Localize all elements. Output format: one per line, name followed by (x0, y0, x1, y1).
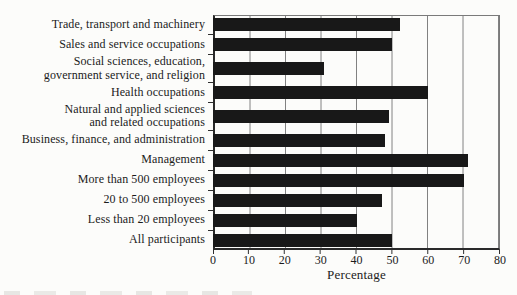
bar (213, 18, 400, 31)
chart-row: Health occupations (0, 83, 500, 103)
bar-track (211, 170, 500, 190)
x-tick-label: 60 (422, 253, 434, 268)
category-label: Health occupations (0, 86, 211, 99)
bar-track (211, 15, 500, 35)
x-tick-label: 30 (315, 253, 327, 268)
x-tick-label: 0 (210, 253, 216, 268)
x-axis-title: Percentage (213, 267, 500, 283)
bar-track (211, 210, 500, 230)
scanned-bar-chart-figure: Trade, transport and machinerySales and … (0, 0, 517, 295)
category-label: Less than 20 employees (0, 213, 211, 226)
chart-row: Natural and applied sciences and related… (0, 103, 500, 131)
bar-track (211, 190, 500, 210)
bar-track (211, 103, 500, 131)
category-label: Management (0, 153, 211, 166)
bar (213, 62, 324, 75)
chart-row: Social sciences, education, government s… (0, 55, 500, 83)
bar (213, 194, 382, 207)
category-label: 20 to 500 employees (0, 193, 211, 206)
bar (213, 234, 392, 247)
category-label: Trade, transport and machinery (0, 18, 211, 31)
x-tick-label: 10 (243, 253, 255, 268)
bar (213, 214, 357, 227)
bar (213, 110, 389, 123)
bar (213, 174, 464, 187)
chart-row: Business, finance, and administration (0, 130, 500, 150)
chart-row: Less than 20 employees (0, 210, 500, 230)
x-tick-label: 40 (351, 253, 363, 268)
bar (213, 38, 392, 51)
chart-row: 20 to 500 employees (0, 190, 500, 210)
x-tick-label: 50 (386, 253, 398, 268)
category-label: Natural and applied sciences and related… (0, 103, 211, 130)
category-label: Social sciences, education, government s… (0, 55, 211, 82)
chart-rows: Trade, transport and machinerySales and … (0, 15, 500, 250)
chart-row: Sales and service occupations (0, 35, 500, 55)
category-label: Business, finance, and administration (0, 133, 211, 146)
bar-track (211, 230, 500, 250)
bar (213, 154, 468, 167)
x-tick-label: 80 (494, 253, 506, 268)
bar-track (211, 150, 500, 170)
chart-row: More than 500 employees (0, 170, 500, 190)
bar-track (211, 130, 500, 150)
bar-track (211, 55, 500, 83)
clipped-caption-fragment (4, 291, 252, 295)
x-tick-label: 20 (279, 253, 291, 268)
x-tick-label: 70 (458, 253, 470, 268)
category-label: More than 500 employees (0, 173, 211, 186)
chart-row: Management (0, 150, 500, 170)
bar-track (211, 35, 500, 55)
chart-row: Trade, transport and machinery (0, 15, 500, 35)
bar-track (211, 83, 500, 103)
bar (213, 86, 428, 99)
x-axis-tick-labels: 01020304050607080 (213, 253, 500, 267)
category-label: All participants (0, 233, 211, 246)
bar (213, 134, 385, 147)
chart-row: All participants (0, 230, 500, 250)
category-label: Sales and service occupations (0, 38, 211, 51)
